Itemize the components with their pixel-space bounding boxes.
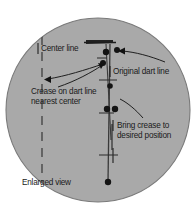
enlarged-view-circle — [6, 18, 190, 202]
dart-dot-top-right — [114, 47, 120, 53]
label-bring-line-1: Bring crease to — [117, 121, 169, 130]
label-center-line: Center line — [41, 44, 78, 54]
label-bring-crease: Bring crease to desired position — [117, 121, 189, 141]
dart-dot-top-left — [103, 49, 109, 55]
dart-dot-crease-right — [112, 106, 118, 112]
caption-enlarged-view: Enlarged view — [22, 178, 71, 188]
label-bring-line-2: desired position — [117, 131, 171, 140]
dart-point-dot — [105, 179, 111, 185]
label-crease-on-dart-line: Crease on dart line nearest center — [31, 87, 109, 107]
label-crease-line-2: nearest center — [31, 97, 81, 106]
label-original-dart-line: Original dart line — [113, 67, 169, 77]
label-crease-line-1: Crease on dart line — [31, 87, 96, 96]
enlarged-view-figure: Center line Original dart line Crease on… — [0, 0, 196, 209]
